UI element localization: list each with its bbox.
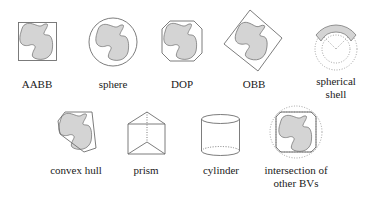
prism-shape — [128, 112, 165, 154]
intersection-shape — [270, 106, 322, 158]
label-sphere: sphere — [99, 78, 128, 91]
label-intersection-line1: intersection of — [264, 164, 327, 177]
spherical-shell-shape — [315, 25, 357, 70]
obb-shape — [224, 10, 282, 71]
sphere-shape — [89, 18, 137, 66]
label-prism: prism — [133, 164, 158, 177]
label-obb: OBB — [243, 78, 266, 91]
label-aabb: AABB — [22, 78, 53, 91]
label-spherical-shell-line1: spherical — [316, 75, 356, 88]
label-convex-hull: convex hull — [50, 164, 102, 177]
label-intersection-line2: other BVs — [274, 177, 319, 190]
aabb-shape — [19, 23, 57, 61]
label-spherical-shell-line2: shell — [326, 88, 347, 101]
dop-shape — [162, 21, 202, 61]
convex-hull-shape — [58, 112, 96, 152]
label-cylinder: cylinder — [203, 164, 239, 177]
label-dop: DOP — [171, 78, 193, 91]
cylinder-shape — [202, 115, 240, 156]
